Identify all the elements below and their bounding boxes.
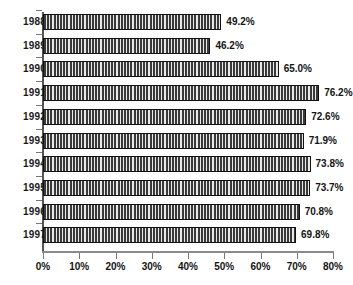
bar-1989[interactable] (43, 38, 210, 54)
y-axis-tick (36, 176, 42, 177)
bar-row: 198849.2% (0, 14, 349, 30)
x-axis-tick (333, 253, 334, 259)
category-label-1994: 1994 (6, 156, 46, 172)
bar-1988[interactable] (43, 14, 221, 30)
category-label-1989: 1989 (6, 38, 46, 54)
x-axis-tick (261, 253, 262, 259)
x-tick-label-50%: 50% (204, 261, 244, 272)
category-label-1990: 1990 (6, 61, 46, 77)
y-axis-tick (36, 129, 42, 130)
x-axis-tick (152, 253, 153, 259)
bar-1990[interactable] (43, 61, 279, 77)
bar-row: 199573.7% (0, 180, 349, 196)
bar-1996[interactable] (43, 204, 300, 220)
bar-value-1988: 49.2% (226, 14, 254, 30)
category-label-1996: 1996 (6, 204, 46, 220)
bar-1992[interactable] (43, 109, 306, 125)
x-axis-tick (224, 253, 225, 259)
bar-row: 199371.9% (0, 133, 349, 149)
bar-row: 199473.8% (0, 156, 349, 172)
x-axis-tick (79, 253, 80, 259)
y-axis-tick (36, 34, 42, 35)
bar-value-1989: 46.2% (215, 38, 243, 54)
x-tick-label-40%: 40% (168, 261, 208, 272)
category-label-1995: 1995 (6, 180, 46, 196)
y-axis-tick (36, 57, 42, 58)
x-tick-label-60%: 60% (241, 261, 281, 272)
y-axis-tick (36, 81, 42, 82)
y-axis-tick (36, 223, 42, 224)
bar-row: 198946.2% (0, 38, 349, 54)
bar-value-1994: 73.8% (316, 156, 344, 172)
x-tick-label-20%: 20% (96, 261, 136, 272)
category-label-1988: 1988 (6, 14, 46, 30)
bar-value-1997: 69.8% (301, 227, 329, 243)
x-tick-label-80%: 80% (313, 261, 353, 272)
y-axis-tick (36, 152, 42, 153)
x-axis-tick (43, 253, 44, 259)
y-axis-tick (36, 200, 42, 201)
bar-row: 199176.2% (0, 85, 349, 101)
bar-value-1990: 65.0% (284, 61, 312, 77)
bar-1995[interactable] (43, 180, 310, 196)
x-axis-tick (116, 253, 117, 259)
bar-1997[interactable] (43, 227, 296, 243)
y-axis-tick (36, 105, 42, 106)
bar-value-1996: 70.8% (305, 204, 333, 220)
category-label-1992: 1992 (6, 109, 46, 125)
bar-row: 199272.6% (0, 109, 349, 125)
x-tick-label-70%: 70% (277, 261, 317, 272)
bar-row: 199065.0% (0, 61, 349, 77)
category-label-1997: 1997 (6, 227, 46, 243)
bar-value-1991: 76.2% (324, 85, 352, 101)
x-tick-label-30%: 30% (132, 261, 172, 272)
bar-value-1992: 72.6% (311, 109, 339, 125)
bar-1993[interactable] (43, 133, 304, 149)
bar-value-1993: 71.9% (309, 133, 337, 149)
bar-1994[interactable] (43, 156, 311, 172)
category-label-1991: 1991 (6, 85, 46, 101)
bar-row: 199769.8% (0, 227, 349, 243)
bar-1991[interactable] (43, 85, 319, 101)
x-tick-label-10%: 10% (59, 261, 99, 272)
x-tick-label-0%: 0% (23, 261, 63, 272)
bar-row: 199670.8% (0, 204, 349, 220)
x-axis-tick (188, 253, 189, 259)
bar-value-1995: 73.7% (315, 180, 343, 196)
x-axis-tick (297, 253, 298, 259)
category-label-1993: 1993 (6, 133, 46, 149)
y-axis-tick (36, 10, 42, 11)
